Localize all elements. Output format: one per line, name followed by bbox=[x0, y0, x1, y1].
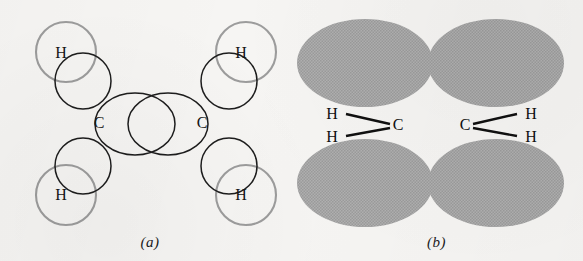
hydrogen-label-top-left: H bbox=[55, 44, 67, 61]
panel-b-caption: (b) bbox=[290, 234, 583, 251]
bond-line-left-lower bbox=[346, 128, 390, 136]
hydrogen-label-right-lower: H bbox=[525, 128, 537, 145]
carbon-label-right: C bbox=[197, 114, 208, 131]
p-orbital-lobe-lower-right bbox=[428, 139, 564, 227]
hydrogen-label-bottom-left: H bbox=[55, 186, 67, 203]
bond-line-right-lower bbox=[473, 128, 517, 136]
sigma-orbital-left bbox=[95, 93, 175, 155]
panel-b-diagram: C C H H H H bbox=[290, 0, 583, 240]
panel-a: C C H H H H (a) bbox=[0, 0, 300, 261]
panel-a-diagram: C C H H H H bbox=[0, 0, 300, 240]
hydrogen-label-top-right: H bbox=[235, 44, 247, 61]
hydrogen-label-left-lower: H bbox=[326, 128, 338, 145]
hydrogen-label-bottom-right: H bbox=[235, 186, 247, 203]
hydrogen-label-left-upper: H bbox=[326, 105, 338, 122]
bond-line-right-upper bbox=[473, 114, 517, 124]
carbon-label-left: C bbox=[94, 114, 105, 131]
bond-line-left-upper bbox=[346, 114, 390, 124]
panel-b: C C H H H H (b) bbox=[290, 0, 583, 261]
hydrogen-label-right-upper: H bbox=[525, 105, 537, 122]
p-orbital-lobe-lower-left bbox=[297, 139, 433, 227]
p-orbital-lobe-upper-right bbox=[428, 19, 564, 107]
ethylene-orbital-figure: C C H H H H (a) bbox=[0, 0, 583, 261]
carbon-label-left-b: C bbox=[393, 116, 404, 133]
carbon-label-right-b: C bbox=[460, 116, 471, 133]
p-orbital-lobe-upper-left bbox=[297, 19, 433, 107]
panel-a-caption: (a) bbox=[0, 234, 300, 251]
